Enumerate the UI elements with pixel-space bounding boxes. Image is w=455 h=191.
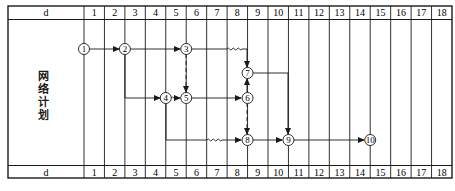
footer-day-7: 7 [214,167,219,178]
side-label-char: 络 [36,83,50,96]
header-day-9: 9 [255,7,260,18]
header-day-17: 17 [416,7,426,18]
node-label: 7 [245,68,250,78]
node-4: 4 [160,93,171,104]
footer-day-label: d [44,167,49,178]
header-day-18: 18 [437,7,447,18]
arrow-2-4 [125,54,160,98]
footer-day-15: 15 [375,167,385,178]
arrows [89,48,364,141]
node-label: 8 [245,135,250,145]
footer-day-9: 9 [255,167,260,178]
footer-day-5: 5 [174,167,179,178]
header-day-6: 6 [194,7,199,18]
header-day-3: 3 [133,7,138,18]
day-grid-lines [84,6,432,178]
header-day-7: 7 [214,7,219,18]
header-day-label: d [44,7,49,18]
header-day-12: 12 [314,7,324,18]
header-day-2: 2 [112,7,117,18]
node-label: 3 [184,44,189,54]
node-1: 1 [79,44,90,55]
node-2: 2 [119,44,130,55]
footer-day-10: 10 [273,167,283,178]
footer-day-1: 1 [92,167,97,178]
node-label: 10 [366,135,376,145]
footer-day-3: 3 [133,167,138,178]
footer-day-17: 17 [416,167,426,178]
footer-day-14: 14 [355,167,365,178]
network-plan-label: 网 络 计 划 [36,70,50,122]
arrow-4-8 [166,103,241,141]
time-scaled-network-diagram: 123456789101112131415161718 123456789101… [0,0,455,191]
node-7: 7 [242,68,253,79]
node-5: 5 [181,93,192,104]
header-day-8: 8 [235,7,240,18]
header-day-1: 1 [92,7,97,18]
footer-day-6: 6 [194,167,199,178]
node-label: 2 [123,44,128,54]
header-day-4: 4 [153,7,158,18]
node-label: 4 [164,93,169,103]
side-label-char: 网 [36,70,50,83]
node-label: 5 [184,93,189,103]
node-label: 9 [286,135,291,145]
node-10: 10 [365,135,376,146]
node-label: 1 [82,44,87,54]
footer-day-8: 8 [235,167,240,178]
arrow-3-7 [191,48,247,67]
arrow-7-9 [252,73,288,134]
node-label: 6 [245,93,250,103]
header-day-16: 16 [396,7,406,18]
header-day-11: 11 [294,7,304,18]
node-6: 6 [242,93,253,104]
header-day-10: 10 [273,7,283,18]
node-8: 8 [242,135,253,146]
footer-day-18: 18 [437,167,447,178]
header-day-5: 5 [174,7,179,18]
header-day-14: 14 [355,7,365,18]
header-day-13: 13 [335,7,345,18]
arrow-4-5 [171,97,180,99]
table-border [8,6,452,178]
footer-day-11: 11 [294,167,304,178]
node-9: 9 [283,135,294,146]
node-3: 3 [181,44,192,55]
side-label-char: 划 [36,109,50,122]
footer-day-4: 4 [153,167,158,178]
header-day-15: 15 [375,7,385,18]
footer-day-2: 2 [112,167,117,178]
footer-day-13: 13 [335,167,345,178]
side-label-char: 计 [36,96,50,109]
footer-day-16: 16 [396,167,406,178]
footer-day-12: 12 [314,167,324,178]
